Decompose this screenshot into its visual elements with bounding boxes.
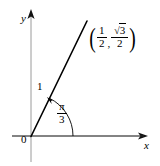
- y-coordinate-fraction: √3 2: [111, 25, 128, 49]
- radius-label: 1: [37, 81, 43, 92]
- angle-fraction: π 3: [57, 101, 67, 125]
- angle-denominator: 3: [57, 114, 67, 126]
- y-coordinate-denominator: 2: [111, 38, 128, 50]
- origin-label: 0: [21, 134, 27, 145]
- angle-label: π 3: [57, 102, 67, 126]
- y-coordinate-numerator: √3: [111, 25, 128, 38]
- square-root-icon: √3: [113, 25, 126, 37]
- close-paren: ): [130, 27, 136, 49]
- y-axis-label: y: [21, 13, 26, 24]
- open-paren: (: [89, 27, 95, 49]
- x-coordinate-fraction: 1 2: [97, 25, 107, 49]
- x-axis-label: x: [144, 140, 149, 151]
- point-coordinate-label: ( 1 2 , √3 2 ): [88, 26, 137, 50]
- radicand: 3: [119, 23, 127, 36]
- x-coordinate-denominator: 2: [97, 38, 107, 50]
